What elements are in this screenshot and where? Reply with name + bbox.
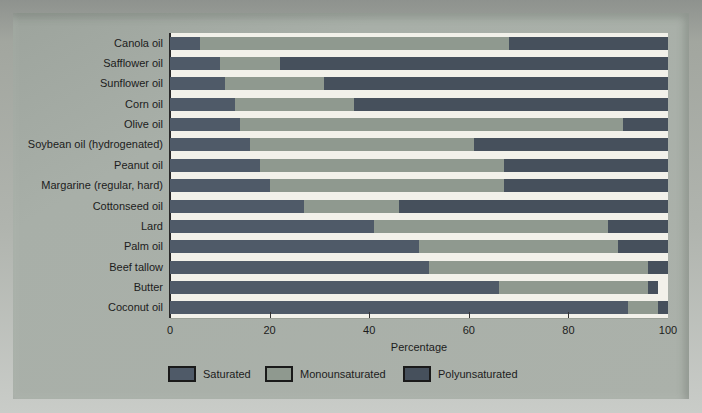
category-label: Margarine (regular, hard): [13, 179, 163, 192]
chart-legend: SaturatedMonounsaturatedPolyunsaturated: [13, 366, 689, 382]
bar-segment-saturated: [170, 57, 220, 70]
bar-segment-monounsaturated: [304, 200, 399, 213]
bar-row: [170, 281, 668, 294]
bar-segment-monounsaturated: [270, 179, 504, 192]
x-axis-tick: [568, 312, 569, 318]
bar-segment-monounsaturated: [499, 281, 648, 294]
bar-row: [170, 138, 668, 151]
bar-segment-saturated: [170, 281, 499, 294]
bar-segment-polyunsaturated: [608, 220, 668, 233]
bar-segment-polyunsaturated: [648, 281, 658, 294]
bar-segment-monounsaturated: [200, 37, 509, 50]
bar-segment-saturated: [170, 159, 260, 172]
x-axis-tick-label: 20: [263, 324, 275, 336]
x-axis-title: Percentage: [391, 341, 447, 353]
bar-row: [170, 301, 668, 314]
x-axis-tick: [369, 312, 370, 318]
plot-area: [170, 33, 668, 319]
bar-segment-polyunsaturated: [623, 118, 668, 131]
category-label: Soybean oil (hydrogenated): [13, 138, 163, 151]
x-axis-tick: [469, 312, 470, 318]
bar-segment-saturated: [170, 138, 250, 151]
legend-swatch-monounsaturated: [265, 366, 293, 382]
bar-row: [170, 200, 668, 213]
bar-segment-polyunsaturated: [509, 37, 668, 50]
category-label: Coconut oil: [13, 301, 163, 314]
bar-row: [170, 118, 668, 131]
category-label: Corn oil: [13, 98, 163, 111]
bar-segment-polyunsaturated: [399, 200, 668, 213]
bar-segment-polyunsaturated: [474, 138, 668, 151]
bar-row: [170, 77, 668, 90]
bar-segment-polyunsaturated: [658, 301, 668, 314]
bar-segment-monounsaturated: [419, 240, 618, 253]
legend-swatch-polyunsaturated: [403, 366, 431, 382]
legend-item: Saturated: [168, 366, 251, 381]
x-axis-tick-label: 100: [659, 324, 677, 336]
bar-segment-monounsaturated: [429, 261, 648, 274]
legend-swatch-saturated: [168, 366, 196, 382]
bar-segment-polyunsaturated: [354, 98, 668, 111]
category-label: Peanut oil: [13, 159, 163, 172]
bar-segment-polyunsaturated: [504, 159, 668, 172]
bar-segment-polyunsaturated: [618, 240, 668, 253]
bar-segment-monounsaturated: [225, 77, 325, 90]
bar-row: [170, 179, 668, 192]
page-background: Canola oilSafflower oilSunflower oilCorn…: [0, 0, 702, 413]
bar-segment-monounsaturated: [220, 57, 280, 70]
bar-segment-monounsaturated: [235, 98, 355, 111]
bar-segment-monounsaturated: [250, 138, 474, 151]
x-axis-tick-label: 0: [167, 324, 173, 336]
figure-panel: Canola oilSafflower oilSunflower oilCorn…: [13, 13, 689, 399]
legend-label: Saturated: [203, 368, 251, 380]
y-axis-line: [169, 33, 171, 318]
bar-segment-polyunsaturated: [280, 57, 668, 70]
x-axis-tick-label: 80: [562, 324, 574, 336]
x-axis-tick-label: 60: [463, 324, 475, 336]
category-label: Cottonseed oil: [13, 200, 163, 213]
bar-segment-saturated: [170, 77, 225, 90]
bar-segment-monounsaturated: [260, 159, 504, 172]
category-label: Butter: [13, 281, 163, 294]
bar-segment-polyunsaturated: [504, 179, 668, 192]
bar-segment-monounsaturated: [374, 220, 608, 233]
bar-row: [170, 98, 668, 111]
bar-row: [170, 37, 668, 50]
bar-segment-polyunsaturated: [648, 261, 668, 274]
category-label: Sunflower oil: [13, 77, 163, 90]
bar-segment-saturated: [170, 240, 419, 253]
x-axis-tick: [270, 312, 271, 318]
bar-row: [170, 240, 668, 253]
category-label: Palm oil: [13, 240, 163, 253]
category-label: Lard: [13, 220, 163, 233]
legend-item: Polyunsaturated: [403, 366, 518, 381]
x-axis-tick-label: 40: [363, 324, 375, 336]
bar-segment-monounsaturated: [240, 118, 623, 131]
bar-segment-saturated: [170, 301, 628, 314]
legend-label: Polyunsaturated: [438, 368, 518, 380]
legend-label: Monounsaturated: [300, 368, 386, 380]
bar-segment-saturated: [170, 179, 270, 192]
bar-row: [170, 159, 668, 172]
bar-row: [170, 57, 668, 70]
bar-segment-saturated: [170, 98, 235, 111]
bar-segment-saturated: [170, 37, 200, 50]
bar-segment-saturated: [170, 200, 304, 213]
bar-segment-saturated: [170, 118, 240, 131]
bar-segment-saturated: [170, 220, 374, 233]
bar-segment-monounsaturated: [628, 301, 658, 314]
bar-row: [170, 220, 668, 233]
bar-segment-polyunsaturated: [324, 77, 668, 90]
category-label: Beef tallow: [13, 261, 163, 274]
category-label: Olive oil: [13, 118, 163, 131]
category-label: Canola oil: [13, 37, 163, 50]
category-label: Safflower oil: [13, 57, 163, 70]
bar-segment-saturated: [170, 261, 429, 274]
category-labels: Canola oilSafflower oilSunflower oilCorn…: [13, 33, 163, 318]
legend-item: Monounsaturated: [265, 366, 386, 381]
bar-row: [170, 261, 668, 274]
